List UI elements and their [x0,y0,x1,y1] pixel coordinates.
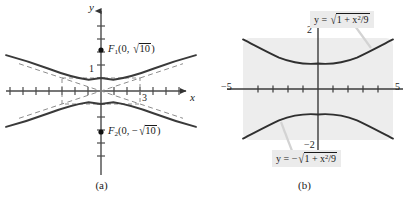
callout-lower-radical: √1 + x2/9 [297,152,337,164]
radical-sign-icon: √ [298,152,304,166]
axis-y-label: y [89,2,94,13]
panel-b: −5 5 2 −2 y = √1 + x2/9 y = −√1 + x2/9 (… [203,0,406,198]
focus-lower-radical: √10 [138,125,157,137]
callout-upper-equation: y = √1 + x2/9 [310,11,374,28]
vertex-label: 1 [89,64,94,74]
focus-label-upper: F1(0, √10) [108,43,155,56]
radical-sign-icon: √ [133,43,139,56]
x-max-label: 5 [395,82,400,92]
panel-a-caption: (a) [0,180,203,191]
focus-lower-close: ) [157,125,161,136]
x-min-label: −5 [221,82,232,92]
axis-x-label: x [190,92,195,103]
focus-point-lower [98,129,103,134]
callout-upper-lhs: y = [314,14,330,25]
callout-lower-equation: y = −√1 + x2/9 [272,150,341,167]
focus-upper-open: (0, [118,43,132,54]
callout-upper-radicand-a: 1 + x [337,14,358,25]
focus-point-upper [98,47,103,52]
callout-lower-lhs: y = [276,153,292,164]
focus-lower-open: (0, [118,125,132,136]
callout-upper-radicand: 1 + x2/9 [336,13,370,25]
radical-sign-icon: √ [139,125,145,138]
focus-upper-radicand: 10 [139,43,152,55]
focus-upper-radical: √10 [132,43,151,55]
panel-b-plot [203,0,406,198]
y-min-label: −2 [304,140,315,150]
callout-lower-radicand: 1 + x2/9 [304,152,338,164]
panel-a-plot [0,0,203,198]
box-corner-label: 3 [142,93,147,103]
panel-a: y x 1 3 F1(0, √10) F2(0, −√10) (a) [0,0,203,198]
radical-sign-icon: √ [331,13,337,27]
callout-lower-radicand-b: /9 [328,153,336,164]
callout-lower-radicand-a: 1 + x [304,153,325,164]
callout-upper-radical: √1 + x2/9 [330,13,370,25]
focus-label-lower: F2(0, −√10) [108,125,161,138]
focus-lower-radicand: 10 [145,125,158,137]
focus-upper-close: ) [151,43,155,54]
panel-b-caption: (b) [203,180,406,191]
callout-upper-radicand-b: /9 [361,14,369,25]
figure-container: y x 1 3 F1(0, √10) F2(0, −√10) (a) [0,0,406,198]
